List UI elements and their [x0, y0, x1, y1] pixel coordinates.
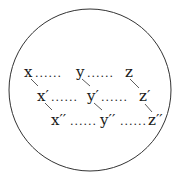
dots-row3-right: ......	[120, 115, 147, 128]
label-x-prime: x′	[37, 87, 49, 105]
dots-row1-right: ......	[87, 67, 114, 80]
dots-row2-right: ......	[101, 91, 128, 104]
label-z: z	[125, 63, 133, 81]
label-y: y	[75, 63, 85, 81]
label-z-double-prime: z′′	[148, 111, 163, 129]
label-y-double-prime: y′′	[99, 111, 116, 129]
dots-row1-left: ......	[35, 67, 62, 80]
label-z-prime: z′	[139, 87, 151, 105]
dots-row2-left: ......	[51, 91, 78, 104]
label-y-prime: y′	[86, 87, 99, 105]
label-x: x	[24, 63, 33, 81]
label-x-double-prime: x′′	[51, 111, 67, 129]
dots-row3-left: ......	[70, 115, 97, 128]
diagram-canvas: x ...... y ...... z x′ ...... y′ ...... …	[0, 0, 181, 180]
